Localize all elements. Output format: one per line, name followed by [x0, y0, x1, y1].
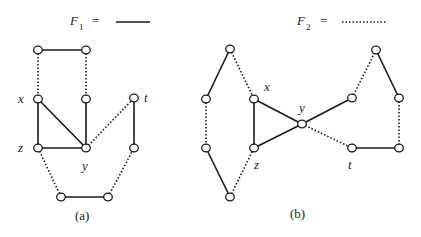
label-a-t: t — [144, 90, 148, 105]
graph-b-nodes — [202, 45, 404, 201]
legend-f2: F 2 = — [296, 13, 386, 32]
legend-f1-name: F — [69, 13, 79, 28]
edge-b-l2-bot — [206, 148, 230, 197]
diagram-canvas: F 1 = F 2 = x z y t (a) x y z t (b) — [0, 0, 421, 237]
edge-b-rt-rf — [376, 50, 399, 98]
caption-a: (a) — [75, 208, 89, 223]
edge-b-bot-z — [230, 148, 254, 197]
edge-b-z-y — [254, 124, 302, 148]
edge-b-x-y — [254, 99, 302, 124]
label-b-y: y — [297, 100, 305, 115]
node-b-z — [250, 144, 259, 152]
node-b-t — [348, 144, 357, 152]
legend-f1-equals: = — [92, 13, 99, 28]
node-b-top — [226, 45, 235, 53]
node-a-x — [34, 95, 43, 103]
node-b-y — [298, 120, 307, 128]
node-b-rt — [372, 46, 381, 54]
node-a-z — [34, 144, 43, 152]
node-b-x — [250, 95, 259, 103]
label-a-z: z — [17, 140, 23, 155]
node-a-tb — [130, 144, 139, 152]
node-a-br — [104, 193, 113, 201]
edge-b-r1-rt — [352, 50, 376, 98]
legend-f1-subscript: 1 — [79, 22, 84, 32]
caption-b: (b) — [290, 206, 305, 221]
node-b-r1 — [348, 94, 357, 102]
legend-f2-equals: = — [320, 13, 327, 28]
edge-b-top-l1 — [206, 49, 230, 99]
node-b-bot — [226, 193, 235, 201]
node-b-rf — [395, 94, 404, 102]
edge-a-z-bl — [38, 148, 61, 197]
edge-a-x-y — [38, 99, 86, 148]
node-a-m — [82, 95, 91, 103]
node-a-tr — [82, 46, 91, 54]
label-a-y: y — [80, 158, 88, 173]
legend-f1: F 1 = — [69, 13, 150, 32]
node-b-l1 — [202, 95, 211, 103]
legend-f2-subscript: 2 — [306, 22, 311, 32]
legend-f2-name: F — [296, 13, 306, 28]
node-b-rb — [395, 144, 404, 152]
graph-a-edges — [38, 50, 134, 197]
label-a-x: x — [17, 91, 24, 106]
edge-a-y-t — [86, 98, 134, 148]
edge-b-y-t — [302, 124, 352, 148]
edge-b-y-r1 — [302, 98, 352, 124]
edge-b-top-x — [230, 49, 254, 99]
node-a-t — [130, 94, 139, 102]
label-b-z: z — [253, 157, 259, 172]
node-b-l2 — [202, 144, 211, 152]
edge-a-br-tb — [108, 148, 134, 197]
node-a-y — [82, 144, 91, 152]
label-b-t: t — [348, 157, 352, 172]
node-a-bl — [57, 193, 66, 201]
node-a-tl — [34, 46, 43, 54]
label-b-x: x — [263, 79, 270, 94]
